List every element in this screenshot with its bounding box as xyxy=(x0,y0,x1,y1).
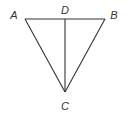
segment-bc xyxy=(65,19,105,92)
label-d: D xyxy=(61,5,69,16)
label-b: B xyxy=(110,10,117,21)
label-c: C xyxy=(61,101,69,112)
triangle-diagram: A D B C xyxy=(0,0,130,114)
segment-ac xyxy=(25,19,65,92)
label-a: A xyxy=(10,10,17,21)
